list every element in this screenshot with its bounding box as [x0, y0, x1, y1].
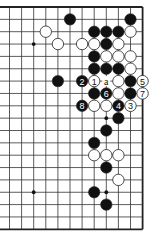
black-stone [101, 125, 112, 136]
white-stone [113, 150, 124, 161]
white-stone [101, 100, 112, 111]
white-stone [89, 100, 100, 111]
white-stone [101, 51, 112, 62]
go-board-diagram: 21567843a [0, 0, 155, 239]
black-stone [101, 162, 112, 173]
black-stone [101, 199, 112, 210]
black-stone [89, 187, 100, 198]
white-stone [113, 88, 124, 99]
go-board: 21567843a [0, 0, 155, 239]
white-stone [113, 174, 124, 185]
black-stone [52, 75, 63, 86]
white-stone [113, 51, 124, 62]
black-stone [101, 63, 112, 74]
white-stone [89, 38, 100, 49]
move-number-label: 1 [92, 77, 97, 87]
white-stone [125, 51, 136, 62]
move-number-label: 6 [104, 89, 109, 99]
point-letter-label: a [104, 76, 109, 87]
white-stone [76, 38, 87, 49]
white-stone [125, 26, 136, 37]
black-stone [113, 112, 124, 123]
white-stone [113, 38, 124, 49]
white-stone [101, 150, 112, 161]
white-stone [125, 63, 136, 74]
black-stone [125, 75, 136, 86]
black-stone [125, 14, 136, 25]
star-point [32, 190, 36, 194]
white-stone [52, 38, 63, 49]
black-stone [113, 26, 124, 37]
black-stone [89, 51, 100, 62]
black-stone [113, 63, 124, 74]
star-point [32, 42, 36, 46]
black-stone [125, 88, 136, 99]
move-number-label: 8 [80, 101, 85, 111]
white-stone [89, 150, 100, 161]
star-point [104, 116, 108, 120]
black-stone [101, 38, 112, 49]
white-stone [40, 26, 51, 37]
white-stone [113, 75, 124, 86]
move-number-label: 7 [140, 89, 145, 99]
black-stone [89, 137, 100, 148]
star-point [104, 190, 108, 194]
move-number-label: 3 [128, 101, 133, 111]
move-number-label: 5 [140, 77, 145, 87]
black-stone [89, 88, 100, 99]
black-stone [89, 63, 100, 74]
black-stone [89, 26, 100, 37]
move-number-label: 2 [80, 77, 85, 87]
move-number-label: 4 [116, 101, 121, 111]
black-stone [101, 26, 112, 37]
black-stone [64, 14, 75, 25]
